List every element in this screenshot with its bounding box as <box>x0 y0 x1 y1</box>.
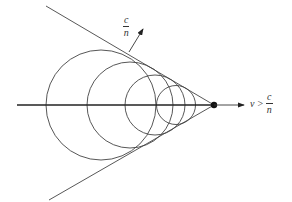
particle-speed-label: v > c n <box>250 92 273 115</box>
cherenkov-diagram <box>0 0 292 202</box>
wave-speed-label: c n <box>123 15 129 38</box>
wave-velocity-arrow <box>129 29 143 52</box>
